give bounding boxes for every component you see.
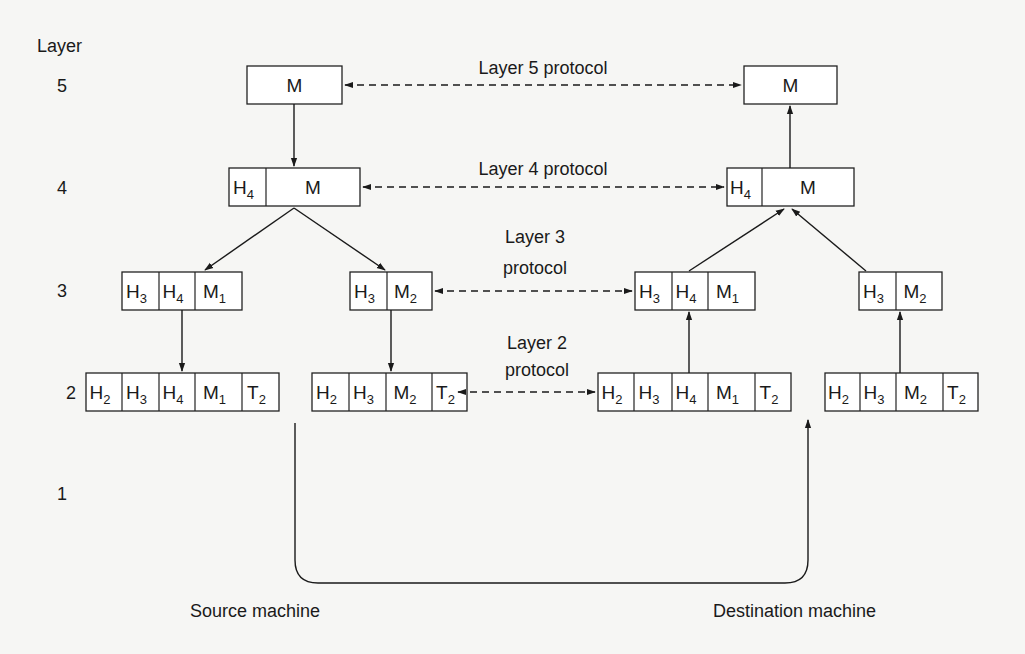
packet-src-l2b: H2H3M2T2: [312, 373, 467, 411]
packet-dst-l3a: H3H4M1: [635, 272, 755, 310]
layer-number-5: 5: [57, 76, 67, 96]
protocol-label-layer-3-line2: protocol: [503, 258, 567, 278]
packet-dst-l2b: H2H3M2T2: [825, 373, 978, 411]
cell-message: M: [800, 177, 816, 198]
layer-axis-label: Layer: [37, 36, 82, 56]
packet-src-l4: H4M: [229, 168, 360, 206]
packet-src-l3a: H3H4M1: [122, 272, 242, 310]
cell-message: M: [783, 75, 799, 96]
arrow-up-l3b-l4: [792, 209, 866, 271]
packet-src-l5: M: [247, 66, 342, 104]
layer-axis: Layer 5 4 3 2 1: [37, 36, 82, 504]
packet-dst-l3b: H3M2: [859, 272, 942, 310]
cell-message: M: [287, 75, 303, 96]
arrow-up-l3a-l4: [689, 209, 784, 271]
protocol-stack-diagram: Layer 5 4 3 2 1 MH4MH3H4M1H3M2H2H3H4M1T2…: [0, 0, 1025, 654]
destination-machine-label: Destination machine: [713, 601, 876, 621]
packet-src-l3b: H3M2: [350, 272, 432, 310]
arrow-down-l4-l3b: [294, 208, 385, 270]
arrow-down-l4-l3a: [205, 208, 294, 270]
protocol-label-layer-2-line1: Layer 2: [507, 333, 567, 353]
source-flow-arrows: [182, 104, 391, 371]
protocol-labels: Layer 5 protocol Layer 4 protocol Layer …: [478, 58, 607, 380]
protocol-label-layer-2-line2: protocol: [505, 360, 569, 380]
packet-dst-l5: M: [744, 66, 837, 104]
source-machine-label: Source machine: [190, 601, 320, 621]
layer-number-4: 4: [57, 178, 67, 198]
packet-dst-l4: H4M: [727, 168, 854, 206]
packet-src-l2a: H2H3H4M1T2: [86, 373, 279, 411]
layer-number-2: 2: [66, 383, 76, 403]
physical-medium-link: [295, 420, 808, 583]
protocol-label-layer-4: Layer 4 protocol: [478, 159, 607, 179]
packet-dst-l2a: H2H3H4M1T2: [598, 373, 791, 411]
protocol-label-layer-5: Layer 5 protocol: [478, 58, 607, 78]
destination-flow-arrows: [689, 106, 900, 373]
protocol-label-layer-3-line1: Layer 3: [505, 227, 565, 247]
layer-number-3: 3: [57, 281, 67, 301]
cell-message: M: [305, 177, 321, 198]
layer-number-1: 1: [57, 484, 67, 504]
